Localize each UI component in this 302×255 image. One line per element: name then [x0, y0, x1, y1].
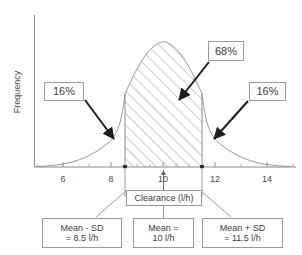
x-axis-title-box: Clearance (l/h): [126, 190, 202, 206]
stat-box-mean-plus-sd-line2: = 11.5 l/h: [224, 233, 261, 243]
stat-box-mean-line1: Mean =: [148, 223, 178, 233]
stat-box-mean-plus-sd: Mean + SD = 11.5 l/h: [202, 218, 283, 248]
callout-right-16-percent: 16%: [249, 82, 286, 101]
x-tick-label-14: 14: [262, 174, 272, 184]
arrow-left-16: [85, 100, 114, 139]
chart-svg: 6 8 10 12 14 Frequency: [0, 0, 302, 255]
stat-box-mean-minus-sd: Mean - SD = 8.5 l/h: [42, 218, 122, 248]
x-axis-title-label: Clearance (l/h): [134, 193, 193, 203]
connector-minus-sd-diagonal: [96, 191, 126, 217]
callout-left-16-percent-label: 16%: [53, 85, 75, 98]
stat-box-mean: Mean = 10 l/h: [133, 218, 194, 248]
y-axis-title: Frequency: [12, 70, 22, 113]
stat-box-mean-line2: 10 l/h: [152, 233, 174, 243]
connector-plus-sd-diagonal: [201, 191, 231, 217]
normal-distribution-chart: 6 8 10 12 14 Frequency 16% 68% 16% Clear…: [0, 0, 302, 255]
x-tick-label-12: 12: [210, 174, 220, 184]
x-tick-label-6: 6: [60, 174, 65, 184]
sd-marker-lower: [123, 165, 127, 168]
stat-box-mean-minus-sd-line1: Mean - SD: [60, 223, 103, 233]
callout-center-68-percent: 68%: [208, 41, 244, 61]
sd-marker-upper: [200, 165, 204, 168]
shaded-region-68: [125, 42, 202, 167]
x-tick-label-8: 8: [108, 174, 113, 184]
arrow-right-16: [214, 101, 248, 139]
callout-right-16-percent-label: 16%: [256, 85, 278, 98]
stat-box-mean-minus-sd-line2: = 8.5 l/h: [66, 233, 98, 243]
stat-box-mean-plus-sd-line1: Mean + SD: [220, 223, 265, 233]
callout-left-16-percent: 16%: [44, 82, 84, 101]
callout-center-68-percent-label: 68%: [215, 45, 237, 58]
